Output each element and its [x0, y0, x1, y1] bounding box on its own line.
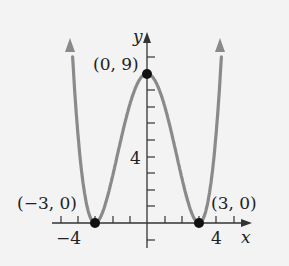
point-label-3-0: (3, 0)	[211, 193, 257, 213]
graph: (0, 9) (−3, 0) (3, 0) −4 4 4 x y	[0, 0, 289, 266]
y-axis-label: y	[132, 26, 143, 46]
y-tick-label-4: 4	[130, 148, 141, 168]
y-axis-arrow-icon	[143, 32, 151, 43]
point-0-9	[142, 69, 152, 79]
point-label-neg3-0: (−3, 0)	[17, 193, 77, 213]
y-ticks	[147, 57, 155, 240]
curve-left-arrow-icon	[65, 38, 75, 52]
curve-right-arrow-icon	[215, 38, 225, 52]
point-neg3-0	[90, 218, 100, 228]
point-3-0	[194, 218, 204, 228]
x-axis-label: x	[241, 227, 251, 247]
x-tick-label-neg4: −4	[56, 228, 81, 248]
point-label-0-9: (0, 9)	[93, 54, 139, 74]
x-axis-arrow-icon	[241, 219, 252, 227]
x-tick-label-4: 4	[211, 228, 222, 248]
